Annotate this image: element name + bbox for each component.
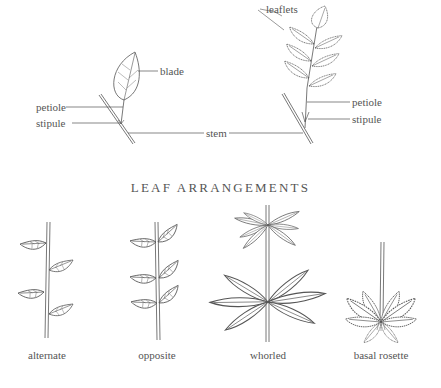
caption-whorled: whorled	[218, 350, 318, 361]
label-stem: stem	[206, 128, 227, 139]
caption-opposite: opposite	[107, 350, 207, 361]
label-petiole-compound: petiole	[352, 97, 382, 108]
whorled-drawing	[210, 205, 326, 342]
label-blade: blade	[160, 66, 184, 77]
basal-rosette-drawing	[343, 242, 420, 346]
caption-basal-rosette: basal rosette	[331, 350, 431, 361]
simple-leaf-drawing	[66, 52, 158, 144]
label-stipule-simple: stipule	[36, 118, 65, 129]
label-petiole-simple: petiole	[36, 102, 66, 113]
alternate-drawing	[18, 222, 73, 338]
label-leaflets: leaflets	[266, 4, 298, 15]
label-stipule-compound: stipule	[352, 114, 381, 125]
section-title: LEAF ARRANGEMENTS	[0, 180, 441, 196]
compound-leaf-drawing	[258, 6, 350, 144]
caption-alternate: alternate	[0, 350, 97, 361]
opposite-drawing	[130, 222, 182, 340]
